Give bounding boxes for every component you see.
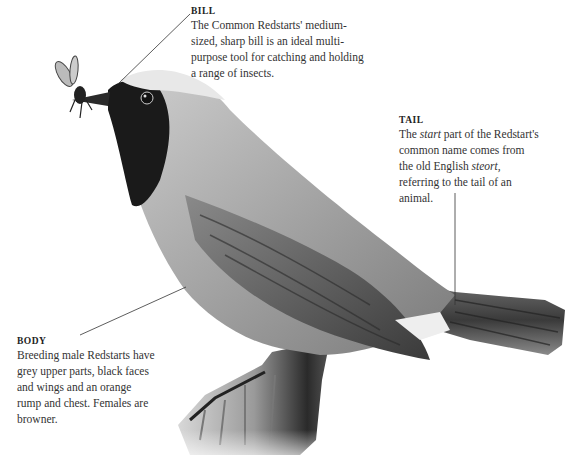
bill-heading: BILL xyxy=(191,6,371,16)
body-heading: BODY xyxy=(17,336,157,346)
tail-description: The start part of the Redstart's common … xyxy=(399,126,539,206)
insect xyxy=(52,56,92,118)
body-leader-line xyxy=(80,287,186,335)
tail-text-em-steort: steort, xyxy=(472,160,501,172)
tail-text-post: referring to the tail of an animal. xyxy=(399,176,512,204)
tail-callout: TAIL The start part of the Redstart's co… xyxy=(399,115,539,206)
bird-body xyxy=(72,70,455,360)
body-description: Breeding male Redstarts have grey upper … xyxy=(17,347,157,427)
tail-text-em-start: start xyxy=(420,128,441,140)
bill-description: The Common Redstarts' medium-sized, shar… xyxy=(191,17,371,81)
bill-callout: BILL The Common Redstarts' medium-sized,… xyxy=(191,6,371,81)
tail-heading: TAIL xyxy=(399,115,539,125)
tail-text-pre: The xyxy=(399,128,420,140)
wooden-post xyxy=(160,340,360,469)
body-callout: BODY Breeding male Redstarts have grey u… xyxy=(17,336,157,427)
